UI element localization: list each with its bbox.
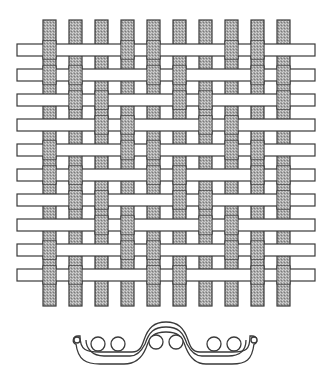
- weave-cross-section-diagram: [0, 0, 330, 378]
- weft-cross-section-circle: [227, 337, 241, 351]
- weft-cross-section-circle: [207, 337, 221, 351]
- weft-cross-section-circle: [111, 337, 125, 351]
- weft-cross-section-circle: [149, 335, 163, 349]
- weft-cross-section-circle: [91, 337, 105, 351]
- weft-cross-section-circle: [169, 335, 183, 349]
- warp-end-knob: [74, 337, 80, 343]
- warp-end-knob: [251, 337, 257, 343]
